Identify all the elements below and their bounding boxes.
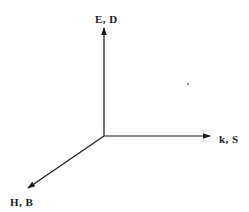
axes-diagram [0, 0, 249, 212]
label-h-b: H, B [10, 197, 33, 208]
label-e-d: E, D [95, 14, 118, 25]
stray-dot [187, 83, 189, 85]
label-k-s: k, S [219, 134, 239, 145]
axis-h-b [28, 136, 104, 188]
